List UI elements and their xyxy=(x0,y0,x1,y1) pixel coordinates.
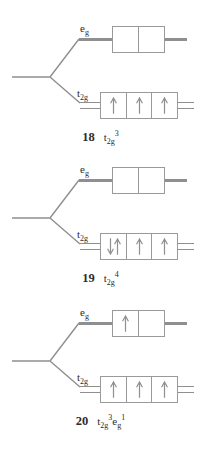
energy-fork-lines xyxy=(10,318,86,390)
t2g-level-line-right xyxy=(178,386,194,393)
up-arrow-icon xyxy=(120,314,131,333)
eg-orbital-boxes xyxy=(112,310,165,337)
eg-level-line-right xyxy=(165,38,187,41)
eg-level-label: eg xyxy=(80,307,89,321)
eg-level-line-left xyxy=(79,38,113,41)
t2g-orbital-boxes xyxy=(100,92,178,119)
eg-level-line-left xyxy=(79,322,113,325)
t2g-level-line-right xyxy=(178,243,194,250)
splitting-diagram-19: eg t2g 19t2g4 xyxy=(0,141,201,283)
orbital-splitting-figure: eg t2g 18t2g3 eg t2g 19t2g4 eg xyxy=(0,0,201,456)
compound-number: 20 xyxy=(76,414,89,428)
orbital-box xyxy=(138,26,165,53)
up-arrow-icon xyxy=(159,237,170,256)
electron-configuration: t2g3eg1 xyxy=(97,415,125,427)
eg-level-label: eg xyxy=(80,164,89,178)
electron-configuration: t2g4 xyxy=(104,272,119,284)
orbital-box xyxy=(100,92,127,119)
up-arrow-icon xyxy=(159,96,170,115)
eg-level-line-right xyxy=(165,179,187,182)
orbital-box xyxy=(151,92,178,119)
up-arrow-icon xyxy=(159,380,170,399)
orbital-box xyxy=(126,92,153,119)
orbital-box xyxy=(112,167,139,194)
up-arrow-icon xyxy=(108,380,119,399)
orbital-box xyxy=(100,376,127,403)
orbital-box xyxy=(126,376,153,403)
up-arrow-icon xyxy=(134,237,145,256)
t2g-level-label: t2g xyxy=(77,88,88,102)
splitting-diagram-20: eg t2g 20t2g3eg1 xyxy=(0,284,201,426)
orbital-box xyxy=(112,26,139,53)
up-arrow-icon xyxy=(134,96,145,115)
t2g-orbital-boxes xyxy=(100,376,178,403)
orbital-box xyxy=(138,167,165,194)
up-arrow-icon xyxy=(108,96,119,115)
t2g-orbital-boxes xyxy=(100,233,178,260)
t2g-level-line-left xyxy=(80,386,101,393)
t2g-level-line-left xyxy=(80,102,101,109)
eg-orbital-boxes xyxy=(112,167,165,194)
up-arrow-icon xyxy=(112,237,123,256)
eg-orbital-boxes xyxy=(112,26,165,53)
orbital-box xyxy=(151,233,178,260)
orbital-box xyxy=(100,233,127,260)
t2g-level-label: t2g xyxy=(77,229,88,243)
energy-fork-lines xyxy=(10,34,86,106)
orbital-box xyxy=(138,310,165,337)
t2g-level-line-right xyxy=(178,102,194,109)
eg-level-line-right xyxy=(165,322,187,325)
eg-level-label: eg xyxy=(80,23,89,37)
up-arrow-icon xyxy=(134,380,145,399)
t2g-level-line-left xyxy=(80,243,101,250)
eg-level-line-left xyxy=(79,179,113,182)
splitting-diagram-18: eg t2g 18t2g3 xyxy=(0,0,201,142)
compound-number: 19 xyxy=(82,271,95,285)
diagram-caption: 20t2g3eg1 xyxy=(0,412,201,429)
orbital-box xyxy=(126,233,153,260)
orbital-box xyxy=(151,376,178,403)
t2g-level-label: t2g xyxy=(77,372,88,386)
orbital-box xyxy=(112,310,139,337)
energy-fork-lines xyxy=(10,175,86,247)
